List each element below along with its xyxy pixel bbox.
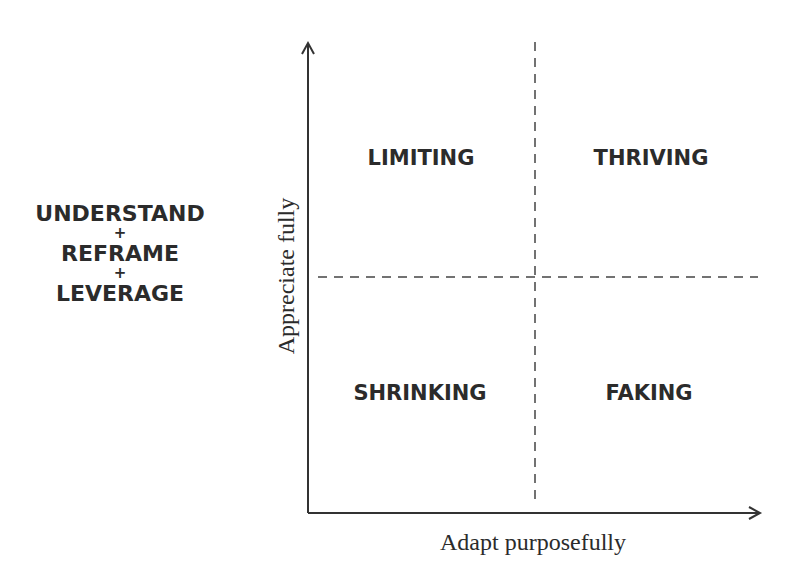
quadrant-shrinking: SHRINKING <box>353 381 486 405</box>
quadrant-limiting: LIMITING <box>368 146 475 170</box>
quadrant-thriving: THRIVING <box>594 146 709 170</box>
axes-graphic <box>0 0 796 588</box>
x-axis-label: Adapt purposefully <box>440 529 626 556</box>
quadrant-faking: FAKING <box>605 381 692 405</box>
quadrant-diagram: UNDERSTAND + REFRAME + LEVERAGE LIMITING… <box>0 0 796 588</box>
y-axis-label: Appreciate fully <box>273 198 300 355</box>
